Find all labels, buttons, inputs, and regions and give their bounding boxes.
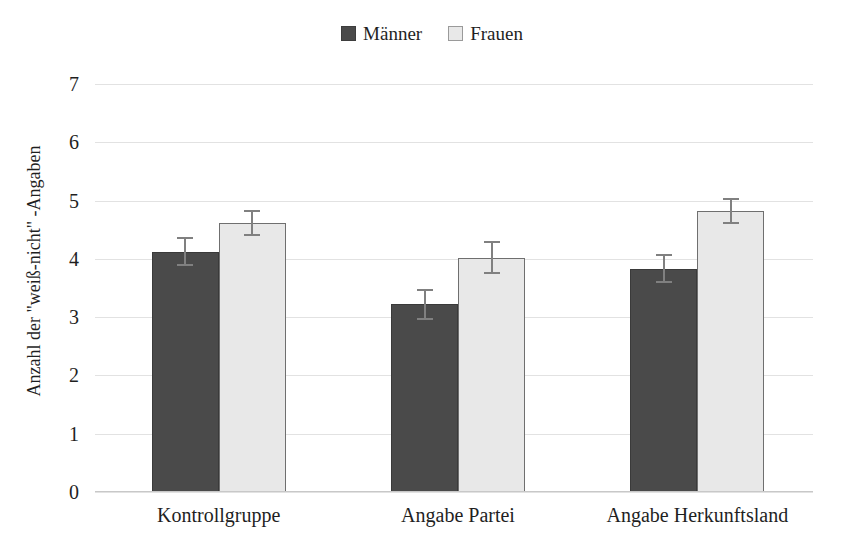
- error-bar-cap-top: [656, 254, 672, 256]
- error-bar-cap-top: [177, 237, 193, 239]
- gridline: [95, 492, 813, 493]
- error-bar-cap-top: [484, 241, 500, 243]
- bar: [219, 223, 286, 492]
- chart-legend: Männer Frauen: [0, 24, 864, 43]
- legend-entry-frauen: Frauen: [448, 24, 523, 43]
- error-bar-cap-top: [244, 210, 260, 212]
- y-axis-tick-label: 3: [49, 307, 79, 327]
- error-bar-cap-bottom: [417, 318, 433, 320]
- legend-entry-maenner: Männer: [341, 24, 422, 43]
- gridline: [95, 84, 813, 85]
- light-square-icon: [448, 26, 463, 41]
- y-axis-tick-labels: 76543210: [35, 84, 79, 492]
- x-axis-tick-labels: KontrollgruppeAngabe ParteiAngabe Herkun…: [95, 503, 813, 537]
- error-bar-stem: [663, 254, 665, 283]
- y-axis-tick-label: 0: [49, 482, 79, 502]
- gridline: [95, 201, 813, 202]
- error-bar-stem: [491, 241, 493, 274]
- error-bar-cap-bottom: [244, 234, 260, 236]
- x-axis-tick-label: Angabe Herkunftsland: [607, 503, 789, 527]
- error-bar-cap-bottom: [723, 222, 739, 224]
- x-axis-tick-label: Angabe Partei: [401, 503, 515, 527]
- y-axis-tick-label: 5: [49, 191, 79, 211]
- error-bar-cap-top: [417, 289, 433, 291]
- error-bar-stem: [730, 198, 732, 224]
- error-bar-cap-bottom: [177, 264, 193, 266]
- y-axis-tick-label: 6: [49, 132, 79, 152]
- error-bar-stem: [424, 289, 426, 320]
- error-bar-cap-top: [723, 198, 739, 200]
- gridline: [95, 142, 813, 143]
- error-bar-cap-bottom: [656, 281, 672, 283]
- y-axis-tick-label: 4: [49, 249, 79, 269]
- bar: [630, 269, 697, 492]
- x-axis-baseline: [95, 491, 813, 492]
- legend-label-maenner: Männer: [363, 24, 422, 43]
- y-axis-tick-label: 2: [49, 365, 79, 385]
- error-bar-stem: [251, 210, 253, 236]
- error-bar-stem: [184, 237, 186, 266]
- bar: [391, 304, 458, 492]
- error-bar-cap-bottom: [484, 272, 500, 274]
- y-axis-tick-label: 7: [49, 74, 79, 94]
- legend-label-frauen: Frauen: [470, 24, 523, 43]
- x-axis-tick-label: Kontrollgruppe: [157, 503, 280, 527]
- plot-area: [95, 84, 813, 492]
- bar-chart: Männer Frauen Anzahl der "weiß-nicht" -A…: [0, 0, 864, 557]
- bar: [697, 211, 764, 492]
- dark-square-icon: [341, 26, 356, 41]
- bar: [458, 258, 525, 492]
- y-axis-tick-label: 1: [49, 424, 79, 444]
- bar: [152, 252, 219, 492]
